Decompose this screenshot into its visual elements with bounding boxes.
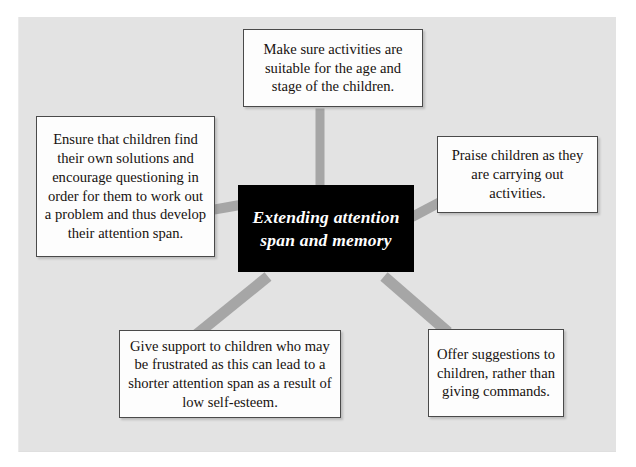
node-right-label: Praise children as they are carrying out… xyxy=(445,146,590,202)
connector-top xyxy=(316,109,325,191)
center-node-label: Extending attention span and memory xyxy=(238,206,414,252)
node-bottom-left-label: Give support to children who may be frus… xyxy=(127,337,333,412)
node-left-label: Ensure that children find their own solu… xyxy=(44,130,207,242)
center-node: Extending attention span and memory xyxy=(238,185,414,272)
node-left: Ensure that children find their own solu… xyxy=(36,116,215,257)
node-top: Make sure activities are suitable for th… xyxy=(243,29,423,107)
node-bottom-right-label: Offer suggestions to children, rather th… xyxy=(436,345,556,401)
diagram-canvas: Make sure activities are suitable for th… xyxy=(0,0,636,467)
node-bottom-left: Give support to children who may be frus… xyxy=(119,330,341,418)
node-bottom-right: Offer suggestions to children, rather th… xyxy=(428,329,564,417)
node-right: Praise children as they are carrying out… xyxy=(437,136,598,213)
node-top-label: Make sure activities are suitable for th… xyxy=(251,40,415,96)
